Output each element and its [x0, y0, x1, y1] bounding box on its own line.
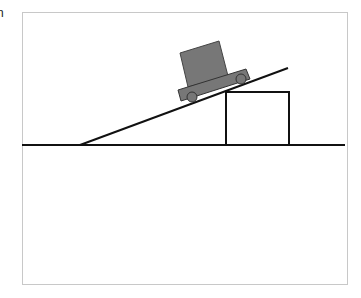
cart-wheel-rear — [187, 92, 197, 102]
physics-diagram — [0, 0, 361, 298]
cart-wheel-front — [236, 74, 246, 84]
